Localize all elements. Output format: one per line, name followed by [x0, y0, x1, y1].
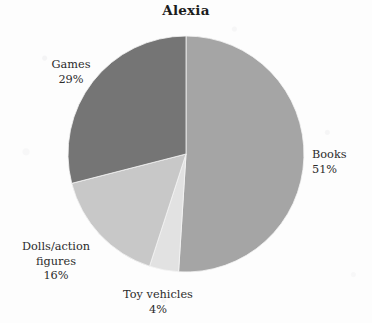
pie-slice-books — [179, 36, 304, 272]
pie-chart-figure: Alexia Books 51% Toy vehicles 4% Dolls/a… — [0, 0, 372, 323]
slice-label-toy-vehicles: Toy vehicles 4% — [104, 288, 212, 317]
slice-label-games: Games 29% — [32, 58, 110, 87]
slice-label-books: Books 51% — [312, 148, 347, 177]
slice-label-dolls-action-figures: Dolls/action figures 16% — [6, 240, 106, 284]
